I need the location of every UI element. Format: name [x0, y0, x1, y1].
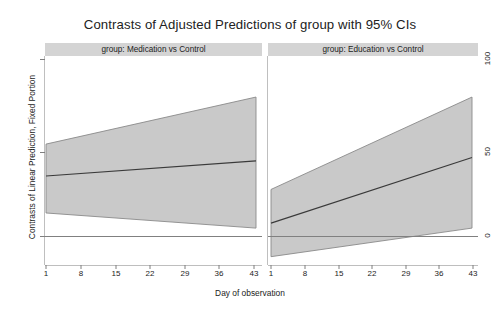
panel-plot-education: [268, 56, 478, 265]
panel-plot-medication: [45, 56, 262, 265]
chart-figure: Contrasts of Adjusted Predictions of gro…: [0, 0, 500, 316]
plot-canvas: [0, 0, 500, 316]
